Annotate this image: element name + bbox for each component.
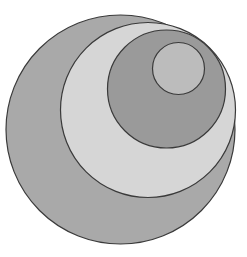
nested-circles-diagram: [0, 0, 247, 257]
figure-canvas: [0, 0, 247, 257]
inner-circle: [153, 43, 205, 95]
circle-group: [6, 15, 236, 244]
